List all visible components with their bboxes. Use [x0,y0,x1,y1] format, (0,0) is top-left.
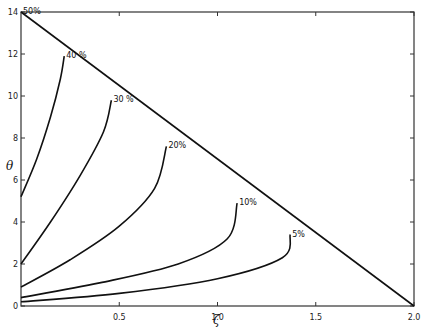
y-tick-label: 8 [13,134,18,143]
curve-label: 30 % [113,95,134,104]
y-tick-label: 12 [8,50,18,59]
x-tick-label: 2.0 [408,313,421,322]
y-tick-label: 6 [13,176,18,185]
y-tick-label: 2 [13,260,18,269]
curve-label: 10% [239,198,257,207]
curve-labels: 50%40 %30 %20%10%5% [23,7,305,239]
curve-label: 5% [292,230,305,239]
curve-30pct [21,100,111,264]
x-tick-label: 0.5 [113,313,126,322]
curve-label: 20% [168,141,186,150]
y-tick-label: 14 [8,8,18,17]
y-tick-label: 4 [13,218,18,227]
curve-5pct [21,235,290,302]
x-tick-label: 1.5 [309,313,322,322]
y-tick-label: 10 [8,92,18,101]
chart: 0.51.01.52.002468101214 50%40 %30 %20%10… [0,0,429,334]
curve-label: 40 % [66,51,87,60]
curve-40pct [21,56,64,197]
curve-label: 50% [23,7,41,16]
curve-20pct [21,146,166,287]
y-tick-label: 0 [13,302,18,311]
y-axis-label: θ [6,159,14,173]
